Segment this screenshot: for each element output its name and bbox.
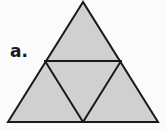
figure-container: a. <box>0 0 166 130</box>
triangle-diagram <box>0 0 166 130</box>
figure-label: a. <box>10 42 28 60</box>
